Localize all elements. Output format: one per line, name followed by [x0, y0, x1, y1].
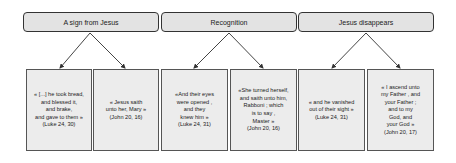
header-jesus-disappears: Jesus disappears — [298, 12, 434, 32]
card-luke-24-31-vanished: « and he vanished out of their sight » (… — [298, 69, 365, 151]
card-john-20-16-rabboni: «She turned herself, and saith unto him,… — [230, 69, 297, 151]
header-label: Recognition — [211, 19, 248, 26]
header-recognition: Recognition — [161, 12, 297, 32]
header-a-sign-from-jesus: A sign from Jesus — [23, 12, 159, 32]
card-luke-24-30: « [...] he took bread, and blessed it, a… — [26, 69, 92, 151]
header-label: A sign from Jesus — [63, 19, 118, 26]
card-john-20-17-ascend: « I ascend unto my Father , and your Fat… — [367, 69, 434, 151]
card-john-20-16-mary: « Jesus saith unto her, Mary » (John 20,… — [93, 69, 159, 151]
card-luke-24-31-eyes-opened: «And their eyes were opened , and they k… — [161, 69, 228, 151]
header-label: Jesus disappears — [339, 19, 393, 26]
